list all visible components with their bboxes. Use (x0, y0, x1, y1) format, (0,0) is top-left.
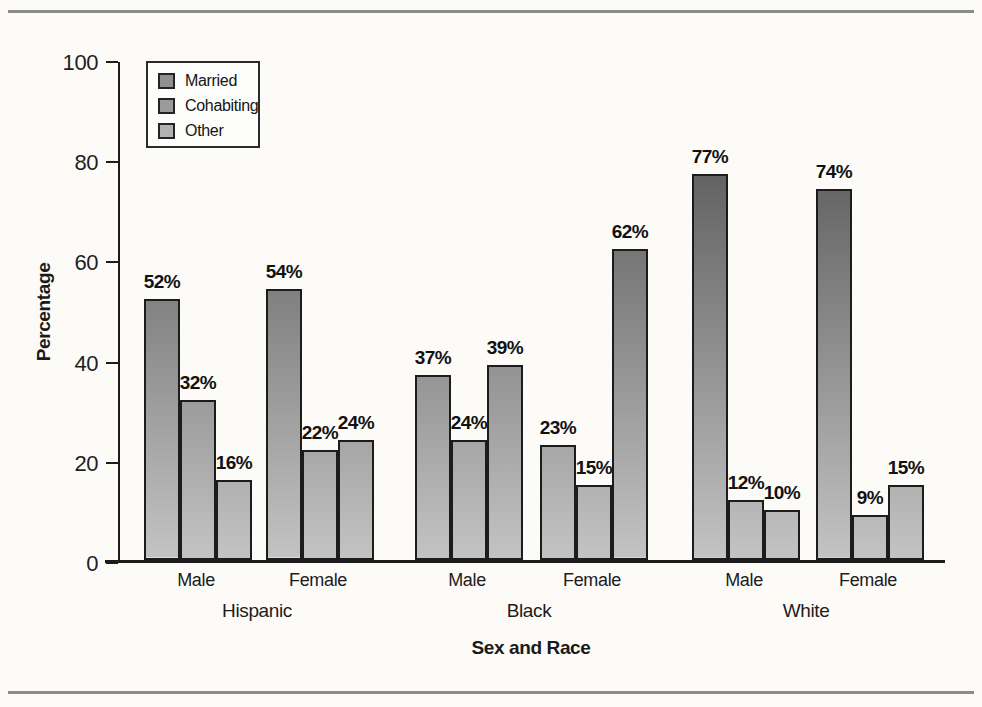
x-group-label-hispanic-male: Male (177, 570, 215, 591)
legend-label: Other (185, 122, 223, 140)
y-tick-label-40: 40 (46, 351, 98, 377)
y-tick-label-20: 20 (46, 451, 98, 477)
bar-hispanic-male-cohabiting (180, 400, 216, 560)
x-race-label-hispanic: Hispanic (222, 600, 292, 622)
x-axis-title: Sex and Race (471, 637, 590, 659)
x-group-label-black-male: Male (448, 570, 486, 591)
x-race-label-black: Black (507, 600, 552, 622)
bar-value-label: 77% (670, 146, 750, 168)
y-tick-label-60: 60 (46, 250, 98, 276)
x-group-label-white-male: Male (725, 570, 763, 591)
bar-black-female-cohabiting (576, 485, 612, 560)
bar-value-label: 52% (122, 271, 202, 293)
y-tick-label-100: 100 (46, 50, 98, 76)
bar-value-label: 16% (194, 452, 274, 474)
bar-value-label: 37% (393, 347, 473, 369)
y-axis-title: Percentage (33, 263, 55, 362)
bar-white-female-cohabiting (852, 515, 888, 560)
chart-plot-area: 52%32%16%54%22%24%37%24%39%23%15%62%77%1… (118, 62, 945, 563)
y-tick-80 (106, 161, 118, 163)
bar-value-label: 24% (316, 412, 396, 434)
x-group-label-hispanic-female: Female (289, 570, 347, 591)
legend-swatch-icon-married (158, 73, 175, 89)
y-tick-20 (106, 462, 118, 464)
legend: MarriedCohabitingOther (146, 61, 260, 148)
bar-white-male-cohabiting (728, 500, 764, 560)
bar-black-female-other (612, 249, 648, 560)
bar-white-male-married (692, 174, 728, 560)
bar-value-label: 32% (158, 372, 238, 394)
bar-white-male-other (764, 510, 800, 560)
bar-value-label: 39% (465, 337, 545, 359)
bar-hispanic-male-married (144, 299, 180, 560)
x-axis-race-labels: HispanicBlackWhite (118, 600, 945, 624)
bar-value-label: 10% (742, 482, 822, 504)
legend-swatch-icon-other (158, 123, 175, 139)
bar-hispanic-male-other (216, 480, 252, 560)
y-tick-label-80: 80 (46, 150, 98, 176)
bar-value-label: 15% (866, 457, 946, 479)
legend-label: Married (185, 72, 237, 90)
y-tick-label-0: 0 (46, 551, 98, 577)
bottom-rule (8, 691, 974, 694)
bar-hispanic-female-cohabiting (302, 450, 338, 560)
bar-black-male-cohabiting (451, 440, 487, 560)
y-tick-100 (106, 61, 118, 63)
y-tick-40 (106, 362, 118, 364)
legend-label: Cohabiting (185, 97, 258, 115)
x-group-label-white-female: Female (839, 570, 897, 591)
bar-value-label: 54% (244, 261, 324, 283)
bar-value-label: 23% (518, 417, 598, 439)
bar-value-label: 62% (590, 221, 670, 243)
y-tick-60 (106, 261, 118, 263)
legend-item-married: Married (158, 72, 258, 90)
bar-black-male-other (487, 365, 523, 560)
bar-white-female-other (888, 485, 924, 560)
x-race-label-white: White (783, 600, 830, 622)
x-axis-sex-labels: MaleFemaleMaleFemaleMaleFemale (118, 570, 945, 594)
top-rule (8, 10, 974, 13)
x-group-label-black-female: Female (563, 570, 621, 591)
legend-item-cohabiting: Cohabiting (158, 97, 258, 115)
bar-value-label: 74% (794, 161, 874, 183)
legend-swatch-icon-cohabiting (158, 98, 175, 114)
bar-hispanic-female-other (338, 440, 374, 560)
bar-black-male-married (415, 375, 451, 560)
legend-item-other: Other (158, 122, 258, 140)
